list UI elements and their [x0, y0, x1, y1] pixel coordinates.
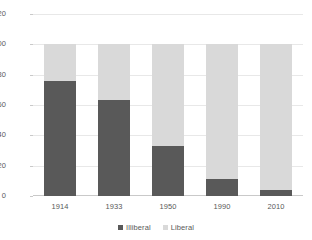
y-tick-label-120: 120 [0, 10, 6, 18]
bar-group-1950[interactable] [152, 14, 184, 196]
bar-group-2010[interactable] [260, 14, 292, 196]
legend-label-illiberal: Illiberal [126, 224, 151, 232]
y-tick-mark-0 [30, 196, 33, 197]
plot-area [33, 14, 303, 196]
bar-segment-1990-liberal[interactable] [206, 44, 238, 179]
bar-segment-2010-liberal[interactable] [260, 44, 292, 190]
y-tick-label-20: 20 [0, 162, 6, 170]
x-tick-label-2010: 2010 [249, 203, 303, 211]
bar-segment-1914-illiberal[interactable] [44, 81, 76, 196]
bar-segment-1933-illiberal[interactable] [98, 100, 130, 196]
legend-swatch-illiberal-icon [118, 225, 123, 230]
bar-group-1990[interactable] [206, 14, 238, 196]
y-tick-label-100: 100 [0, 40, 6, 48]
bar-segment-1950-illiberal[interactable] [152, 146, 184, 196]
bar-segment-1933-liberal[interactable] [98, 44, 130, 100]
bar-segment-1990-illiberal[interactable] [206, 179, 238, 196]
y-tick-label-40: 40 [0, 131, 6, 139]
y-tick-label-60: 60 [0, 101, 6, 109]
x-tick-label-1914: 1914 [33, 203, 87, 211]
bar-segment-1914-liberal[interactable] [44, 44, 76, 80]
y-tick-label-0: 0 [0, 192, 6, 200]
x-tick-label-1950: 1950 [141, 203, 195, 211]
legend-label-liberal: Liberal [171, 224, 194, 232]
bar-segment-1950-liberal[interactable] [152, 44, 184, 146]
chart-legend: IlliberalLiberal [0, 224, 312, 232]
stacked-bar-chart: 020406080100120 19141933195019902010 Ill… [0, 0, 312, 240]
legend-item-illiberal[interactable]: Illiberal [118, 224, 151, 232]
legend-item-liberal[interactable]: Liberal [163, 224, 194, 232]
legend-swatch-liberal-icon [163, 225, 168, 230]
bars-layer [33, 14, 303, 196]
y-tick-label-80: 80 [0, 71, 6, 79]
x-tick-label-1933: 1933 [87, 203, 141, 211]
bar-group-1914[interactable] [44, 14, 76, 196]
bar-group-1933[interactable] [98, 14, 130, 196]
x-tick-label-1990: 1990 [195, 203, 249, 211]
bar-segment-2010-illiberal[interactable] [260, 190, 292, 196]
